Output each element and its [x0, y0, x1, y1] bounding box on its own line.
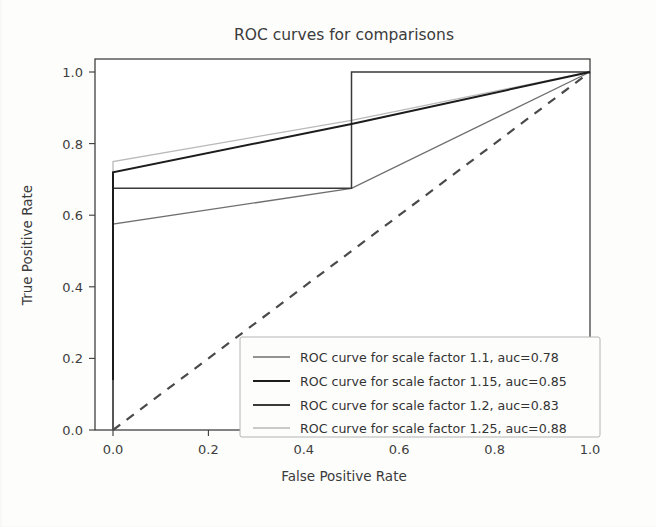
- legend-label-scale-1-2: ROC curve for scale factor 1.2, auc=0.83: [300, 398, 559, 413]
- chart-canvas: ROC curves for comparisons 0.0 0.2 0.4 0…: [0, 0, 656, 527]
- y-tick-label: 0.4: [62, 280, 83, 295]
- y-tick-label: 0.0: [62, 423, 83, 438]
- legend-label-scale-1-25: ROC curve for scale factor 1.25, auc=0.8…: [300, 421, 567, 436]
- legend: ROC curve for scale factor 1.1, auc=0.78…: [240, 337, 600, 437]
- legend-label-scale-1-15: ROC curve for scale factor 1.15, auc=0.8…: [300, 374, 567, 389]
- legend-label-scale-1-1: ROC curve for scale factor 1.1, auc=0.78: [300, 350, 559, 365]
- chart-title: ROC curves for comparisons: [234, 26, 454, 44]
- y-tick-label: 1.0: [62, 65, 83, 80]
- y-tick-label: 0.8: [62, 137, 83, 152]
- y-tick-label: 0.6: [62, 208, 83, 223]
- x-tick-label: 0.6: [389, 442, 410, 457]
- roc-chart-figure: ROC curves for comparisons 0.0 0.2 0.4 0…: [0, 0, 656, 527]
- x-tick-label: 0.0: [103, 442, 124, 457]
- y-axis-label: True Positive Rate: [19, 185, 35, 306]
- x-axis-label: False Positive Rate: [281, 468, 406, 484]
- x-tick-label: 0.2: [198, 442, 219, 457]
- x-tick-label: 0.8: [484, 442, 505, 457]
- x-tick-label: 0.4: [293, 442, 314, 457]
- x-tick-label: 1.0: [580, 442, 601, 457]
- y-tick-label: 0.2: [62, 351, 83, 366]
